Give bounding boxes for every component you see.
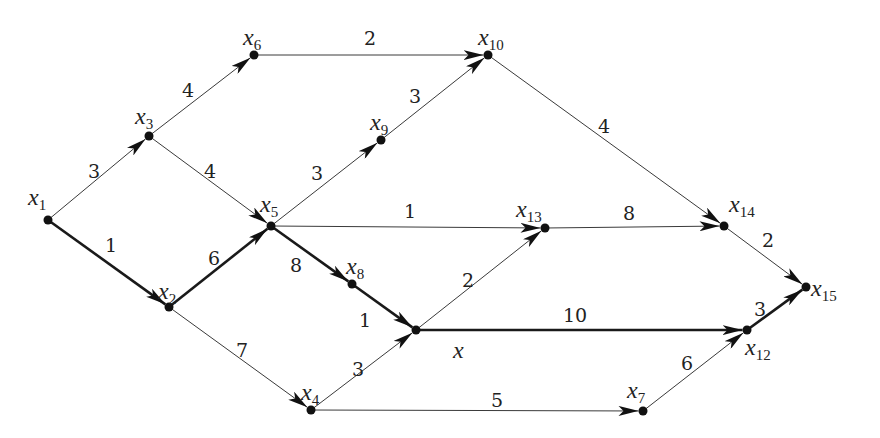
- node-x8: [348, 280, 357, 289]
- edge-x4-x7: [311, 410, 639, 411]
- node-label-x15: x15: [810, 275, 837, 304]
- edge-weight-label: 1: [359, 309, 371, 331]
- edge-weight-label: 6: [681, 352, 693, 374]
- edge-weight-label: 3: [352, 358, 364, 380]
- node-label-x10: x10: [477, 24, 504, 53]
- node-x14: [720, 222, 729, 231]
- node-label-x2: x2: [157, 278, 176, 307]
- edge-weight-label: 3: [311, 162, 323, 184]
- node-x3: [145, 132, 154, 141]
- edge-weight-label: 1: [105, 234, 117, 256]
- node-label-x: x: [452, 337, 464, 363]
- node-label-x12: x12: [744, 334, 771, 363]
- node-x13: [541, 224, 550, 233]
- edge-weight-label: 3: [409, 85, 421, 107]
- edge-weight-label: 1: [404, 200, 416, 222]
- edge-weight-label: 3: [754, 298, 766, 320]
- node-label-x7: x7: [626, 377, 646, 406]
- node-label-x3: x3: [134, 103, 153, 132]
- node-label-x1: x1: [27, 184, 46, 213]
- edge-weight-label: 10: [563, 304, 587, 326]
- edge-weights-layer: 3144672331813210548236: [88, 27, 774, 411]
- node-label-x5: x5: [259, 191, 278, 220]
- edge-x13-x14: [545, 226, 720, 228]
- edge-x5-x9: [271, 143, 377, 226]
- node-x1: [44, 216, 53, 225]
- edge-x1-x2: [48, 220, 165, 304]
- node-labels-layer: x1x2x3x4x5x6x7x8x9x10xx12x13x14x15: [27, 24, 837, 408]
- edge-weight-label: 8: [290, 254, 302, 276]
- edge-weight-label: 5: [491, 389, 503, 411]
- edge-weight-label: 4: [182, 79, 194, 101]
- node-label-x9: x9: [369, 109, 388, 138]
- node-label-x13: x13: [515, 196, 542, 225]
- nodes-layer: [44, 51, 811, 416]
- edge-x5-x13: [271, 226, 541, 228]
- node-label-x8: x8: [345, 253, 364, 282]
- edge-x3-x6: [149, 58, 250, 136]
- node-x5: [267, 222, 276, 231]
- edge-weight-label: 4: [204, 160, 216, 182]
- node-x: [412, 326, 421, 335]
- node-label-x4: x4: [300, 379, 320, 408]
- node-x15: [802, 283, 811, 292]
- edge-x5-x8: [271, 226, 348, 281]
- edge-weight-label: 3: [88, 160, 100, 182]
- node-label-x6: x6: [242, 24, 262, 53]
- edge-x-x13: [416, 231, 541, 330]
- edge-x7-x12: [643, 333, 743, 411]
- edge-weight-label: 2: [762, 229, 774, 251]
- node-label-x14: x14: [728, 191, 755, 220]
- edge-weight-label: 4: [598, 115, 610, 137]
- edge-x9-x10: [381, 58, 484, 140]
- edge-weight-label: 2: [364, 27, 376, 49]
- node-x7: [639, 407, 648, 416]
- edge-weight-label: 8: [623, 202, 635, 224]
- edge-weight-label: 7: [236, 339, 248, 361]
- edge-weight-label: 2: [462, 269, 474, 291]
- edge-weight-label: 6: [208, 247, 220, 269]
- graph-diagram: 3144672331813210548236 x1x2x3x4x5x6x7x8x…: [0, 0, 880, 438]
